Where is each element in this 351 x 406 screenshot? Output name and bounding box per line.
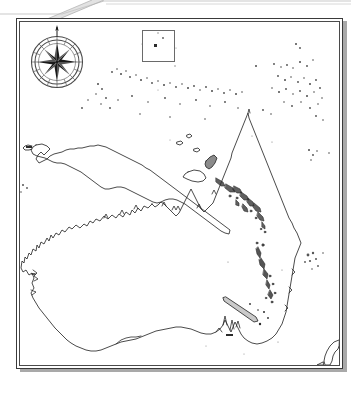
archipelago-caroline-islands — [81, 68, 243, 120]
archipelago-fiji — [304, 252, 324, 270]
landmass-new-guinea — [23, 144, 230, 234]
landmass-australia — [21, 113, 301, 351]
archipelago-bismarck — [177, 134, 217, 182]
landmass-new-caledonia — [223, 297, 269, 325]
inset-locator-box — [142, 30, 175, 62]
archipelago-marshall-islands — [255, 43, 330, 161]
compass-rose — [26, 25, 88, 91]
archipelago-vanuatu — [256, 242, 276, 303]
north-needle-icon — [55, 25, 58, 37]
landmass-new-zealand-north — [317, 340, 339, 365]
australia-coast-detail — [31, 109, 295, 344]
archipelago-lesser-sunda — [20, 184, 28, 193]
map-page — [0, 0, 351, 406]
